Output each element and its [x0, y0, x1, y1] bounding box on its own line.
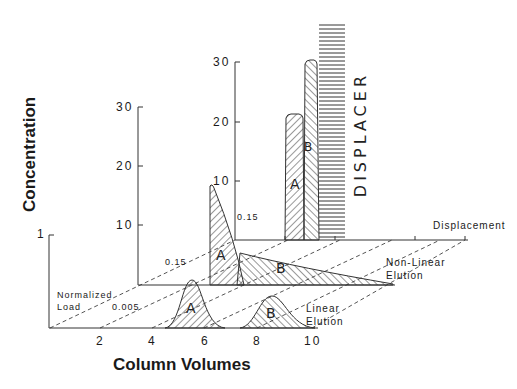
load-linear-value: 0.005 — [112, 302, 140, 312]
linear-ytick-1: 1 — [37, 227, 46, 241]
nonlinear-elution-label-2: Elution — [386, 270, 424, 281]
nl-peak-b-label: B — [276, 260, 286, 276]
load-label: Load — [57, 302, 81, 312]
y-axis-title: Concentration — [20, 97, 40, 212]
disp-peak-a-label: A — [290, 176, 300, 192]
linear-peak-b-label: B — [266, 305, 276, 321]
nl-ytick-10: 10 — [116, 218, 133, 232]
load-nl-value: 0.15 — [165, 257, 187, 267]
xtick-6: 6 — [201, 334, 210, 348]
nonlinear-elution-label-1: Non-Linear — [386, 257, 445, 268]
xtick-10: 10 — [304, 334, 321, 348]
x-axis-title: Column Volumes — [113, 355, 251, 375]
disp-ytick-30: 30 — [213, 55, 230, 69]
xtick-8: 8 — [253, 334, 262, 348]
load-disp-value: 0.15 — [237, 212, 259, 222]
normalized-label: Normalized — [57, 290, 113, 300]
disp-ytick-20: 20 — [213, 115, 230, 129]
linear-elution-label-1: Linear — [306, 303, 340, 314]
nl-ytick-30: 30 — [116, 100, 133, 114]
chromatography-chart — [0, 0, 517, 389]
displacer-label: DISPLACER — [351, 72, 370, 197]
nl-ytick-20: 20 — [116, 159, 133, 173]
displacement-label: Displacement — [433, 220, 506, 231]
linear-elution-label-2: Elution — [306, 316, 344, 327]
xtick-4: 4 — [148, 334, 157, 348]
disp-peak-b-label: B — [304, 140, 312, 154]
linear-peak-a-label: A — [186, 300, 196, 316]
disp-ytick-10: 10 — [213, 174, 230, 188]
nl-peak-a-label: A — [216, 247, 226, 263]
xtick-2: 2 — [96, 334, 105, 348]
